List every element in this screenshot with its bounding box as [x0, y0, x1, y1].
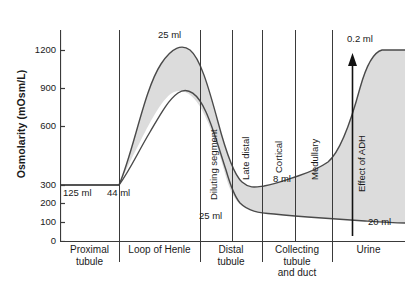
section-caption-distal-tubule: Distal tubule	[200, 244, 262, 267]
y-tick-1200: 1200	[22, 45, 56, 54]
y-axis-tick-labels: 1200 900 600 300 200 100 0	[16, 0, 56, 286]
volume-label-loop-peak: 25 ml	[158, 29, 181, 40]
osmolarity-chart-figure: Osmolarity (mOsm/L) 1200 900 600 300 200…	[0, 0, 411, 286]
volume-label-urine-max: 20 ml	[368, 216, 391, 227]
volume-label-collecting-in: 8 ml	[273, 173, 291, 184]
volume-label-urine-min: 0.2 ml	[347, 33, 373, 44]
section-caption-collecting-duct: Collecting tubule and duct	[262, 244, 332, 279]
y-tick-600: 600	[22, 121, 56, 130]
plot-area: Diluting segment Late distal Cortical Me…	[60, 30, 405, 242]
y-tick-100: 100	[22, 217, 56, 226]
segment-label-diluting-segment: Diluting segment	[208, 129, 219, 200]
volume-label-proximal-in: 125 ml	[63, 187, 92, 198]
section-caption-proximal-tubule: Proximal tubule	[60, 244, 119, 267]
volume-label-proximal-out: 44 ml	[107, 187, 130, 198]
chart-svg	[60, 30, 405, 242]
y-tick-300: 300	[22, 180, 56, 189]
y-tick-0: 0	[22, 236, 56, 245]
section-caption-urine: Urine	[332, 244, 405, 256]
y-tick-900: 900	[22, 83, 56, 92]
section-caption-loop-of-henle: Loop of Henle	[119, 244, 200, 256]
segment-label-cortical: Cortical	[273, 141, 284, 173]
y-tick-200: 200	[22, 198, 56, 207]
adh-effect-label: Effect of ADH	[356, 135, 367, 192]
volume-label-diluting-low: 25 ml	[199, 210, 222, 221]
segment-label-medullary: Medullary	[309, 139, 320, 180]
segment-label-late-distal: Late distal	[240, 137, 251, 180]
section-captions: Proximal tubule Loop of Henle Distal tub…	[60, 244, 405, 286]
